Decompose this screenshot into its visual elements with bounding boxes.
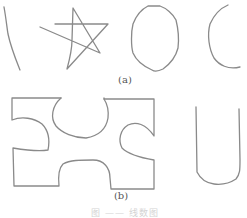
panel-b-label: (b)	[106, 190, 136, 201]
panel-a-label: (a)	[110, 74, 140, 85]
line-drawing-figure	[0, 0, 247, 218]
u-shape	[196, 107, 240, 184]
puzzle-rectangle-shape	[12, 98, 154, 189]
curved-line-shape	[4, 7, 20, 70]
puzzle-top-bump	[53, 98, 109, 138]
open-arc-shape	[209, 5, 240, 68]
figure-caption: 图 —— 线数图	[60, 206, 190, 218]
star-shape	[40, 8, 108, 69]
ellipse-shape	[132, 6, 179, 71]
